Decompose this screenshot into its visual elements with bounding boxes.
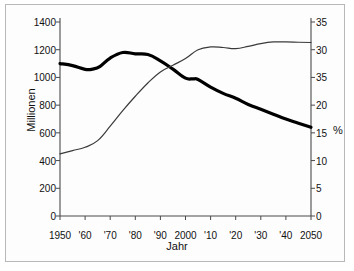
y-tick-label-right: 35 (316, 72, 327, 83)
y-tick-label-left: 400 (0, 155, 56, 166)
y-tick-label-left: 1200 (0, 44, 56, 55)
data-series (60, 42, 311, 154)
y-tick-label-right: 20 (316, 100, 327, 111)
y-tick-label-right: 30 (316, 44, 327, 55)
y-tick-label-right: 0 (316, 211, 322, 222)
series-line-1 (60, 52, 311, 127)
chart-figure: 0200400600800100012001400051015203530351… (0, 0, 354, 271)
series-line-2 (60, 42, 311, 154)
axis-ticks (56, 22, 315, 220)
x-axis-title: Jahr (0, 240, 354, 252)
y-tick-label-right: 35 (316, 17, 327, 28)
y-axis-left-title: Millionen (25, 65, 37, 155)
y-tick-label-left: 200 (0, 183, 56, 194)
y-axis-right-title: % (333, 124, 343, 136)
y-tick-label-right: 5 (316, 183, 322, 194)
y-tick-label-left: 0 (0, 211, 56, 222)
y-tick-label-right: 15 (316, 127, 327, 138)
y-tick-label-right: 10 (316, 155, 327, 166)
y-tick-label-left: 1400 (0, 17, 56, 28)
axis-lines (60, 18, 311, 216)
